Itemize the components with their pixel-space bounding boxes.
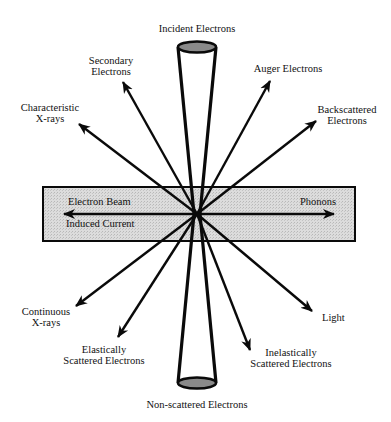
- label-light: Light: [322, 312, 345, 323]
- label-elastic-1: Elastically: [82, 344, 127, 355]
- label-elastic-2: Scattered Electrons: [63, 355, 144, 366]
- label-continuous-2: X-rays: [32, 317, 61, 328]
- label-induced-current: Induced Current: [66, 218, 135, 229]
- label-phonons: Phonons: [300, 196, 336, 207]
- label-characteristic-2: X-rays: [36, 113, 65, 124]
- label-continuous-1: Continuous: [22, 306, 70, 317]
- label-characteristic-1: Characteristic: [21, 102, 80, 113]
- label-nonscattered: Non-scattered Electrons: [146, 399, 247, 410]
- label-secondary-1: Secondary: [89, 55, 134, 66]
- label-backscattered-2: Electrons: [327, 115, 367, 126]
- label-inelastic-1: Inelastically: [265, 347, 317, 358]
- label-auger: Auger Electrons: [254, 63, 323, 74]
- electron-interaction-diagram: Incident Electrons Secondary Electrons C…: [0, 0, 391, 422]
- label-inelastic-2: Scattered Electrons: [250, 358, 331, 369]
- label-incident: Incident Electrons: [159, 23, 236, 34]
- label-backscattered-1: Backscattered: [318, 104, 378, 115]
- label-electron-beam: Electron Beam: [68, 196, 131, 207]
- label-secondary-2: Electrons: [91, 66, 131, 77]
